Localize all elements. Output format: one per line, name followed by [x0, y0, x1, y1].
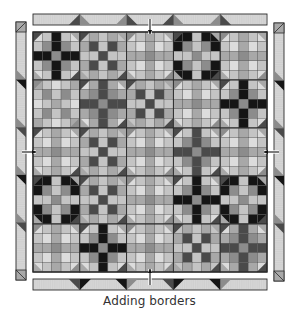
quilt-block — [127, 224, 174, 272]
quilt-block — [220, 176, 267, 224]
quilt-block — [33, 176, 80, 224]
quilt-block — [173, 224, 220, 272]
quilt-diagram — [0, 0, 299, 313]
quilt-block — [33, 224, 80, 272]
arrow-top-icon — [148, 19, 152, 34]
quilt-block — [80, 224, 127, 272]
quilt-block — [80, 128, 127, 176]
quilt-block — [127, 176, 174, 224]
quilt-block — [220, 32, 267, 80]
quilt-block — [220, 80, 267, 128]
quilt-block — [173, 176, 220, 224]
quilt-block — [220, 128, 267, 176]
quilt-block — [80, 176, 127, 224]
quilt-block — [33, 32, 80, 80]
quilt-block — [173, 128, 220, 176]
arrow-bottom-icon — [148, 269, 152, 285]
quilt-block — [127, 32, 174, 80]
quilt-block — [80, 80, 127, 128]
quilt-block — [33, 128, 80, 176]
quilt-block — [220, 224, 267, 272]
arrow-left-icon — [22, 150, 36, 154]
quilt-block — [173, 32, 220, 80]
quilt-block — [127, 80, 174, 128]
quilt-block — [173, 80, 220, 128]
quilt-block — [80, 32, 127, 80]
quilt-center — [33, 32, 267, 272]
quilt-block — [127, 128, 174, 176]
quilt-block — [33, 80, 80, 128]
figure-caption: Adding borders — [0, 294, 299, 308]
arrow-right-icon — [264, 150, 279, 154]
